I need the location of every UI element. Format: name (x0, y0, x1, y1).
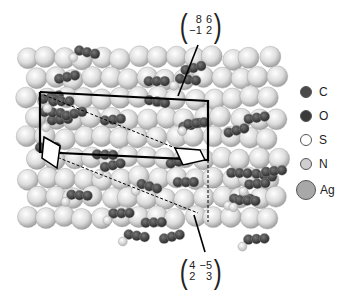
silver-atom (91, 89, 112, 110)
silver-atom (82, 66, 103, 87)
legend-item-s: S (296, 128, 335, 152)
matrix-cell: 2 (206, 25, 212, 36)
legend-label: S (319, 133, 327, 147)
oxygen-atom (196, 61, 206, 71)
legend: C O S N Ag (296, 80, 335, 204)
oxygen-atom (239, 123, 249, 133)
sulfur-atom (131, 187, 140, 196)
legend-label: N (319, 157, 328, 171)
sulfur-atom (61, 197, 70, 206)
sulfur-atom (41, 123, 50, 132)
silver-atom (16, 87, 37, 108)
oxygen-atom (116, 114, 126, 124)
oxygen-atom (157, 217, 167, 227)
silver-atom (111, 169, 132, 190)
silver-atom (267, 66, 288, 87)
sulfur-atom (239, 187, 248, 196)
legend-item-n: N (296, 152, 335, 176)
silver-atom (247, 66, 268, 87)
matrix-cell: 3 (199, 271, 212, 282)
sulfur-atom (229, 203, 238, 212)
sulfur-atom (43, 104, 52, 113)
sulfur-atom-icon (300, 134, 312, 146)
oxygen-atom (152, 183, 162, 193)
oxygen-atom (124, 208, 134, 218)
oxygen-atom (90, 49, 100, 59)
oxygen-atom (116, 159, 126, 169)
oxygen-atom-icon (300, 110, 312, 122)
nitrogen-atom-icon (300, 158, 312, 170)
oxygen-atom (77, 107, 87, 117)
sulfur-atom (118, 237, 127, 246)
matrix-cell: −1 (189, 25, 202, 36)
silver-atom (212, 67, 233, 88)
bottom-transform-matrix: ( 4 −5 2 3 ) (178, 254, 223, 288)
oxygen-atom (189, 177, 199, 187)
sulfur-atom (178, 127, 187, 136)
silver-atom (257, 208, 278, 229)
silver-atom (257, 87, 278, 108)
oxygen-atom (191, 75, 201, 85)
silver-atom (265, 186, 286, 207)
right-paren: ) (214, 8, 222, 42)
silver-atom (238, 47, 259, 68)
silver-atom (256, 129, 277, 150)
silver-atom (26, 68, 47, 89)
silver-atom (73, 87, 94, 108)
silver-atom (164, 208, 185, 229)
sulfur-atom (94, 170, 103, 179)
silver-atom-icon (296, 180, 316, 200)
legend-item-c: C (296, 80, 335, 104)
silver-atom (146, 127, 167, 148)
oxygen-atom (242, 168, 252, 178)
silver-atom (27, 186, 48, 207)
sulfur-atom (69, 53, 78, 62)
carbon-atom-icon (300, 86, 312, 98)
oxygen-atom (250, 196, 260, 206)
silver-atom (71, 208, 92, 229)
matrix-cell: 2 (189, 271, 195, 282)
silver-atom (260, 46, 281, 67)
oxygen-atom (70, 70, 80, 80)
silver-atom (266, 109, 287, 130)
legend-label: C (319, 85, 328, 99)
silver-atom (109, 49, 130, 70)
oxygen-atom (260, 178, 270, 188)
silver-atom (16, 126, 37, 147)
oxygen-atom (82, 191, 92, 201)
sulfur-atom (238, 242, 247, 251)
oxygen-atom (277, 165, 287, 175)
left-paren: ( (180, 254, 188, 288)
silver-atom (36, 208, 57, 229)
sulfur-atom (103, 216, 112, 225)
legend-item-ag: Ag (296, 176, 335, 204)
legend-item-o: O (296, 104, 335, 128)
oxygen-atom (259, 233, 269, 243)
oxygen-atom (175, 230, 185, 240)
silver-atom (193, 187, 214, 208)
oxygen-atom (260, 111, 270, 121)
silver-atom (166, 46, 187, 67)
silver-atom (203, 167, 224, 188)
silver-atom (147, 46, 168, 67)
left-paren: ( (180, 8, 188, 42)
silver-atom (17, 207, 38, 228)
top-transform-matrix: ( 8 6 −1 2 ) (178, 8, 223, 42)
oxygen-atom (140, 232, 150, 242)
legend-label: O (319, 109, 328, 123)
silver-atom (118, 69, 139, 90)
right-paren: ) (214, 254, 222, 288)
sulfur-atom (169, 81, 178, 90)
legend-label: Ag (320, 183, 335, 197)
silver-atom (210, 106, 231, 127)
silver-atom (34, 46, 55, 67)
oxygen-atom (160, 76, 170, 86)
silver-atom (249, 147, 270, 168)
